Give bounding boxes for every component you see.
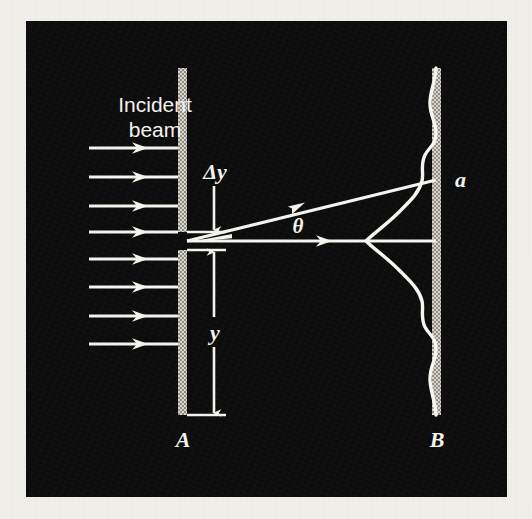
figure-page: Incident beam Δy y θ a A B bbox=[0, 0, 532, 519]
screen-a-label: A bbox=[174, 427, 191, 452]
incident-beam-arrows bbox=[89, 148, 178, 344]
incident-beam-label-line2: beam bbox=[129, 118, 182, 141]
screen-b-label: B bbox=[429, 427, 445, 452]
incident-beam-arrowheads bbox=[132, 142, 148, 350]
y-dimension bbox=[187, 252, 226, 415]
delta-y-label: Δy bbox=[202, 159, 227, 184]
figure-plate: Incident beam Δy y θ a A B bbox=[26, 21, 507, 497]
point-a-label: a bbox=[455, 167, 466, 192]
single-slit-diffraction-diagram: Incident beam Δy y θ a A B bbox=[26, 21, 507, 497]
theta-label: θ bbox=[293, 214, 304, 238]
barrier-screen-a-lower bbox=[178, 250, 187, 415]
incident-beam-label-line1: Incident bbox=[118, 93, 192, 116]
